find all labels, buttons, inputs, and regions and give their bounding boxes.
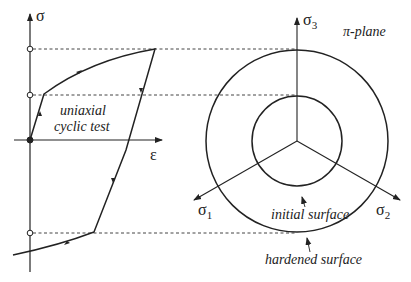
epsilon-axis-label: ε (150, 146, 157, 163)
pi-plane-label: π-plane (343, 24, 386, 39)
caption-line-1: uniaxial (60, 103, 106, 118)
sigma1-label: σ1 (198, 201, 212, 221)
yield-surface-diagram: σ ε uniaxial cyclic test σ3 σ1 σ2 π-plan… (0, 0, 411, 282)
marker-upper (27, 46, 33, 52)
sigma2-axis (297, 141, 400, 200)
initial-surface-pointer (302, 197, 305, 207)
sigma-axis-label: σ (36, 7, 45, 24)
sigma1-axis (194, 141, 297, 200)
sigma3-label: σ3 (303, 11, 318, 31)
marker-middle (27, 92, 33, 98)
hardened-surface-label: hardened surface (265, 252, 362, 267)
initial-surface-label: initial surface (271, 207, 349, 222)
hysteresis-curve (13, 49, 155, 255)
hardened-surface-pointer (307, 238, 310, 252)
origin-dot (27, 137, 33, 143)
diagram-svg: σ ε uniaxial cyclic test σ3 σ1 σ2 π-plan… (0, 0, 411, 282)
marker-lower (27, 230, 33, 236)
sigma2-label: σ2 (376, 201, 390, 221)
caption-line-2: cyclic test (54, 119, 111, 134)
